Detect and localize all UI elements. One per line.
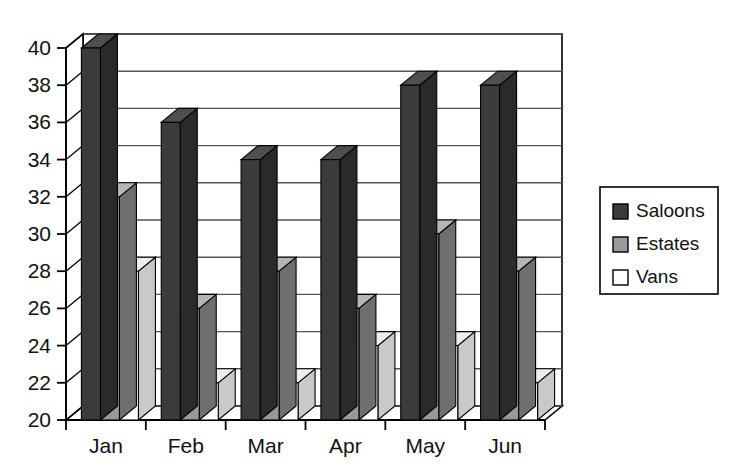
legend-swatch bbox=[613, 237, 628, 252]
bar-front-face bbox=[401, 85, 420, 420]
bar-side-face bbox=[199, 294, 216, 420]
bar-side-face bbox=[378, 332, 395, 420]
y-axis-ticks bbox=[57, 48, 66, 420]
bar-front-face bbox=[481, 85, 500, 420]
bar-side-face bbox=[420, 71, 437, 420]
y-tick-label: 36 bbox=[28, 110, 51, 133]
y-tick-label: 26 bbox=[28, 296, 51, 319]
bar-front-face bbox=[241, 160, 260, 420]
x-tick-label: Jun bbox=[488, 434, 522, 457]
bar-chart: 2022242628303234363840JanFebMarAprMayJun… bbox=[0, 0, 740, 470]
x-tick-label: May bbox=[405, 434, 445, 457]
legend-label: Saloons bbox=[636, 200, 705, 221]
bar-front-face bbox=[161, 122, 180, 420]
legend-swatch bbox=[613, 270, 628, 285]
bar-jan-saloons bbox=[81, 34, 117, 420]
legend: SaloonsEstatesVans bbox=[600, 187, 718, 294]
bar-side-face bbox=[500, 71, 517, 420]
x-tick-label: Feb bbox=[168, 434, 204, 457]
bar-side-face bbox=[439, 220, 456, 420]
y-tick-label: 30 bbox=[28, 222, 51, 245]
chart-canvas: 2022242628303234363840JanFebMarAprMayJun… bbox=[0, 0, 740, 470]
bar-apr-saloons bbox=[321, 146, 357, 420]
bar-side-face bbox=[100, 34, 117, 420]
bar-side-face bbox=[519, 257, 536, 420]
y-tick-label: 20 bbox=[28, 408, 51, 431]
legend-swatch bbox=[613, 204, 628, 219]
bar-side-face bbox=[119, 183, 136, 420]
x-tick-label: Mar bbox=[247, 434, 283, 457]
y-tick-label: 28 bbox=[28, 259, 51, 282]
bar-side-face bbox=[279, 257, 296, 420]
bar-side-face bbox=[180, 108, 197, 420]
bar-side-face bbox=[458, 332, 475, 420]
bar-side-face bbox=[260, 146, 277, 420]
y-tick-label: 32 bbox=[28, 185, 51, 208]
y-tick-label: 34 bbox=[28, 148, 52, 171]
y-tick-label: 22 bbox=[28, 371, 51, 394]
y-axis-labels: 2022242628303234363840 bbox=[28, 36, 52, 431]
bar-may-saloons bbox=[401, 71, 437, 420]
bar-mar-saloons bbox=[241, 146, 277, 420]
legend-label: Estates bbox=[636, 233, 699, 254]
y-tick-label: 38 bbox=[28, 73, 51, 96]
y-tick-label: 40 bbox=[28, 36, 51, 59]
bar-jun-saloons bbox=[481, 71, 517, 420]
x-axis-labels: JanFebMarAprMayJun bbox=[66, 420, 545, 457]
y-tick-label: 24 bbox=[28, 334, 52, 357]
bar-side-face bbox=[359, 294, 376, 420]
legend-label: Vans bbox=[636, 266, 678, 287]
x-tick-label: Jan bbox=[89, 434, 123, 457]
bar-feb-saloons bbox=[161, 108, 197, 420]
bar-front-face bbox=[321, 160, 340, 420]
bar-front-face bbox=[81, 48, 100, 420]
bar-side-face bbox=[138, 257, 155, 420]
bar-side-face bbox=[340, 146, 357, 420]
x-tick-label: Apr bbox=[329, 434, 362, 457]
